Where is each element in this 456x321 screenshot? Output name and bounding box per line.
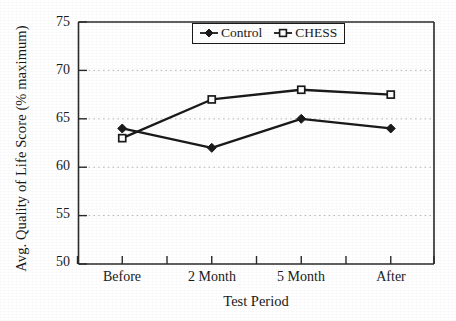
data-point-control-5month bbox=[297, 114, 306, 123]
chart-figure: Avg. Quality of Life Score (% maximum) 7… bbox=[0, 0, 456, 321]
x-tick-label-5month: 5 Month bbox=[277, 269, 325, 285]
series-line-control bbox=[122, 119, 391, 148]
x-axis-title: Test Period bbox=[78, 293, 434, 310]
plot-frame bbox=[79, 22, 435, 264]
x-tick-label-before: Before bbox=[103, 269, 141, 285]
series-line-chess bbox=[122, 90, 391, 138]
legend-marker-open-square-icon bbox=[274, 28, 292, 38]
data-point-chess-before bbox=[119, 135, 126, 142]
x-tick-label-2month: 2 Month bbox=[188, 269, 236, 285]
legend-item-control[interactable]: Control bbox=[200, 25, 262, 41]
data-point-chess-after bbox=[387, 91, 394, 98]
chart-legend[interactable]: Control CHESS bbox=[192, 23, 345, 44]
legend-item-chess[interactable]: CHESS bbox=[274, 25, 337, 41]
data-point-control-after bbox=[386, 124, 395, 133]
data-point-control-before bbox=[118, 124, 127, 133]
x-tick-label-after: After bbox=[376, 269, 406, 285]
data-point-control-2month bbox=[207, 143, 216, 152]
data-point-chess-5month bbox=[298, 86, 305, 93]
y-ticks bbox=[79, 22, 88, 264]
data-point-chess-2month bbox=[208, 96, 215, 103]
legend-label-control: Control bbox=[221, 25, 262, 41]
legend-marker-filled-diamond-icon bbox=[200, 28, 218, 38]
legend-label-chess: CHESS bbox=[295, 25, 337, 41]
gridlines bbox=[79, 70, 433, 215]
x-ticks bbox=[78, 256, 435, 264]
